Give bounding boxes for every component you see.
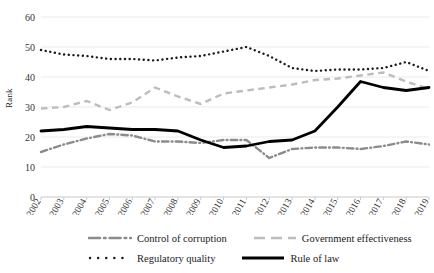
legend-label-regulatory-quality: Regulatory quality — [137, 253, 215, 264]
legend-swatch-dash-dot-icon — [88, 233, 132, 243]
svg-text:2003: 2003 — [47, 197, 65, 215]
legend-swatch-dashed-icon — [253, 233, 297, 243]
svg-text:50: 50 — [25, 42, 35, 53]
svg-text:2008: 2008 — [162, 197, 180, 215]
svg-text:20: 20 — [25, 132, 35, 143]
legend-item-government-effectiveness: Government effectiveness — [253, 233, 412, 244]
legend-swatch-dotted-icon — [88, 253, 132, 263]
legend-swatch-solid-icon — [241, 253, 285, 263]
legend-row-2: Regulatory quality Rule of law — [0, 248, 434, 268]
svg-text:2016: 2016 — [344, 197, 362, 215]
legend-item-rule-of-law: Rule of law — [241, 253, 339, 264]
svg-text:2012: 2012 — [253, 197, 271, 215]
svg-text:2007: 2007 — [139, 197, 157, 215]
svg-text:30: 30 — [25, 102, 35, 113]
series-lines — [41, 47, 429, 158]
legend-label-rule-of-law: Rule of law — [290, 253, 339, 264]
svg-text:2014: 2014 — [298, 197, 316, 215]
plot-svg: 0102030405060 20022003200420052006200720… — [0, 0, 434, 215]
plot-area: 0102030405060 20022003200420052006200720… — [0, 0, 434, 215]
legend-item-regulatory-quality: Regulatory quality — [88, 253, 215, 264]
svg-text:2010: 2010 — [207, 197, 225, 215]
series-line-regulatory-quality — [41, 47, 429, 71]
svg-text:40: 40 — [25, 72, 35, 83]
series-line-rule-of-law — [41, 82, 429, 148]
svg-text:10: 10 — [25, 162, 35, 173]
svg-text:2005: 2005 — [93, 197, 111, 215]
svg-text:2017: 2017 — [367, 197, 385, 215]
legend-label-government-effectiveness: Government effectiveness — [302, 233, 412, 244]
y-tick-labels: 0102030405060 — [25, 12, 35, 203]
x-tick-labels: 2002200320042005200620072008200920102011… — [25, 197, 431, 215]
svg-text:2002: 2002 — [25, 197, 43, 215]
svg-text:2013: 2013 — [276, 197, 294, 215]
svg-text:2009: 2009 — [184, 197, 202, 215]
svg-text:2015: 2015 — [321, 197, 339, 215]
svg-text:60: 60 — [25, 12, 35, 23]
legend-row-1: Control of corruption Government effecti… — [0, 228, 434, 248]
chart-legend: Control of corruption Government effecti… — [0, 228, 434, 273]
series-line-government-effectiveness — [41, 73, 429, 111]
svg-text:2019: 2019 — [413, 197, 431, 215]
line-chart: Rank 0102030405060 200220032004200520062… — [0, 0, 434, 273]
svg-text:2006: 2006 — [116, 197, 134, 215]
svg-text:2004: 2004 — [70, 197, 88, 215]
svg-text:2011: 2011 — [230, 197, 248, 215]
legend-item-control-of-corruption: Control of corruption — [88, 233, 227, 244]
svg-text:2018: 2018 — [390, 197, 408, 215]
legend-label-control-of-corruption: Control of corruption — [137, 233, 227, 244]
